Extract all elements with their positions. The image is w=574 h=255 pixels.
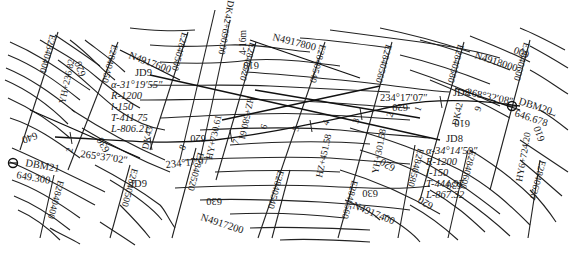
station-yh-236-82: YH+236.82	[57, 58, 76, 105]
mark-1: 1	[412, 105, 423, 113]
grid-label-n4917200: N4917200	[199, 211, 245, 235]
contour-label-630-c: 630	[362, 188, 378, 199]
curve-jd8-radius: R-1200	[425, 156, 458, 167]
curve-jd9-alpha: α-31°19′55″	[111, 79, 163, 90]
curve-jd9-radius: R-1200	[110, 90, 143, 101]
mark-8: 8	[177, 143, 188, 152]
contour-label-620-b: 620	[190, 133, 206, 144]
grid-label-e2840540-bottom: E2840540	[266, 169, 286, 210]
contour-label-640: 640	[21, 130, 40, 146]
curve-jd8-alpha: α-34°14′59″	[426, 145, 478, 156]
station-4-16m: 4-16m	[238, 30, 248, 55]
contour-label-620-c: 620	[392, 102, 408, 113]
grid-label-e2840450: E2840450	[100, 43, 120, 84]
bearing-234-17-07-right: 234°17′07″	[380, 92, 428, 103]
mark-9: 9	[472, 105, 483, 113]
mark-3: 3	[350, 117, 361, 125]
contour-label-610: 610	[243, 60, 259, 71]
station-hy6-724-20: HY6+724.20	[514, 131, 533, 182]
mark-6: 6	[258, 123, 269, 131]
curve-jd9-elements: JD9 α-31°19′55″ R-1200 l-150 T-411.75 L-…	[110, 67, 163, 134]
grid-label-e2840620-bottom: E2840620	[528, 159, 548, 200]
mark-2: 2	[64, 146, 75, 153]
grid-label-e2840500-top: E2840500	[170, 31, 190, 72]
pi-label-jd8: JD8	[453, 87, 470, 98]
curve-jd8-tangent: T-444.97	[426, 178, 464, 189]
curve-jd9-spiral: l-150	[111, 101, 134, 112]
curve-jd8-name: JD8	[446, 133, 463, 144]
grid-label-e2840580-top: E2840580	[446, 43, 466, 84]
grid-label-e2840400-top: E2840400	[38, 33, 58, 74]
station-hy-730-61: HY+730.61	[204, 114, 223, 161]
station-dk42-690: DK42+690.00	[216, 0, 235, 56]
route-alignment-map: E2840400 E2840450 E2840500 DK42+690.00 E…	[0, 0, 574, 255]
curve-jd8-spiral: l-150	[426, 167, 449, 178]
bearing-265-37-02: 265°37′02″	[80, 148, 129, 166]
grid-label-e2840560-top: E2840560	[374, 43, 394, 84]
grid-label-n4917400: N4917400	[351, 200, 396, 227]
bearing-268-32-08: 268°32′08″	[466, 86, 515, 107]
pi-label-jd9: JD9	[130, 178, 147, 189]
curve-jd9-tangent: T-411.75	[111, 112, 148, 123]
curve-jd9-name: JD9	[135, 67, 152, 78]
contour-label-630-b: 630	[206, 196, 222, 207]
curve-jd8-length: L-867.32	[425, 189, 465, 200]
